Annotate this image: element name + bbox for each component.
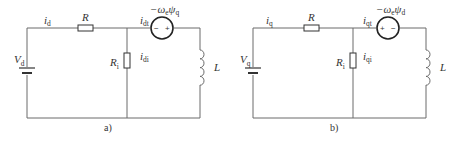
branch-current-label: iqt (363, 14, 373, 28)
shunt-resistor-label: Ri (335, 56, 345, 71)
circuit-diagrams: Vd id R Ri idi idt − + −ωeψq L a) (0, 0, 463, 141)
inductor-label: L (439, 61, 446, 73)
dep-source-right-sign: + (165, 24, 170, 33)
circuit-b: Vq iq R Ri iqi iqt + − −ωeψd L b) (240, 3, 446, 134)
shunt-current-label: idi (140, 50, 149, 64)
inductor-label: L (213, 61, 220, 73)
dep-source-label: −ωeψd (376, 3, 405, 17)
wire-top-right (400, 28, 426, 50)
shunt-current-label: iqi (363, 50, 372, 64)
branch-current-label: idt (140, 14, 150, 28)
voltage-source-battery (19, 68, 35, 73)
series-current-label: id (44, 14, 51, 28)
series-current-label: iq (266, 14, 273, 28)
caption-b: b) (330, 122, 338, 134)
circuit-a: Vd id R Ri idi idt − + −ωeψq L a) (14, 3, 220, 134)
dep-source-label: −ωeψq (150, 3, 179, 17)
voltage-source-battery (245, 68, 261, 73)
series-resistor (78, 25, 93, 31)
shunt-resistor-label: Ri (109, 56, 119, 71)
caption-a: a) (104, 122, 112, 134)
shunt-resistor (124, 53, 130, 68)
inductor (426, 50, 430, 85)
inductor (200, 50, 204, 85)
source-label: Vq (240, 53, 251, 68)
wire-bottom (27, 75, 200, 118)
wire-top-right (174, 28, 200, 50)
series-resistor-label: R (81, 11, 89, 23)
source-label: Vd (14, 53, 25, 68)
series-resistor (304, 25, 319, 31)
wire-bottom (253, 75, 426, 118)
dep-source-left-sign: + (380, 24, 385, 33)
shunt-resistor (350, 53, 356, 68)
series-resistor-label: R (307, 11, 315, 23)
dep-source-right-sign: − (391, 24, 396, 33)
dep-source-left-sign: − (154, 24, 159, 33)
